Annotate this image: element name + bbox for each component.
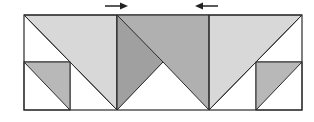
right-arrow-icon	[105, 3, 128, 10]
quilt-block-diagram	[0, 0, 314, 122]
left-arrow-icon	[195, 3, 218, 10]
